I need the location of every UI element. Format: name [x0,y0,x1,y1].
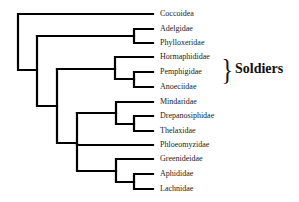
taxon-label-pemphigidae: Pemphigidae [160,67,202,77]
taxon-label-drepanosiphidae: Drepanosiphidae [160,111,214,121]
phylogenetic-tree [0,0,299,202]
taxon-label-coccoidea: Coccoidea [160,9,194,19]
taxon-label-mindaridae: Mindaridae [160,97,197,107]
taxon-label-phloeomyzidae: Phloeomyzidae [160,140,209,150]
branch-pemphigid-anoeciid [134,72,153,87]
taxon-label-adelgidae: Adelgidae [160,24,193,34]
group-brace-icon: } [221,55,233,83]
taxon-label-hormaphididae: Hormaphididae [160,52,210,62]
taxon-label-thelaxidae: Thelaxidae [160,126,196,136]
soldiers-group-label: Soldiers [235,61,283,77]
taxon-label-lachnidae: Lachnidae [160,184,193,194]
taxon-label-anoeciidae: Anoeciidae [160,82,196,92]
branch-node-57 [57,69,77,143]
branch-adelgid-phylloxerid-stem [37,36,57,106]
branch-aphidid-lachnid [134,174,153,189]
branch-drepanosiphid-thelaxid [134,116,153,131]
branch-root [18,14,153,70]
taxon-label-phylloxeridae: Phylloxeridae [160,38,204,48]
taxon-label-aphididae: Aphididae [160,169,193,179]
taxon-label-greenideidae: Greenideidae [160,154,203,164]
branch-node-77 [77,113,116,171]
branch-adelgidae [134,29,153,43]
